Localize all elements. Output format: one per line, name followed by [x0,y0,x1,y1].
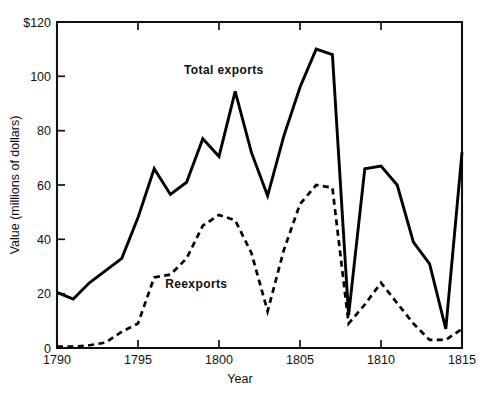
x-axis-top-ticks [138,22,381,30]
x-tick-label-1805: 1805 [286,353,314,367]
y-tick-label-20: 20 [37,287,51,301]
series-label-reexports: Reexports [165,277,227,291]
x-tick-label-1815: 1815 [448,353,476,367]
y-tick-label-120: $120 [23,16,51,30]
x-tick-label-1790: 1790 [43,353,71,367]
series-label-total-exports: Total exports [184,63,264,77]
x-axis-tick-labels: 1790 1795 1800 1805 1810 1815 [43,353,476,367]
y-axis-ticks [57,22,65,348]
y-axis-title: Value (millions of dollars) [8,116,22,255]
y-tick-label-60: 60 [37,179,51,193]
exports-line-chart: 0 20 40 60 80 100 $120 1790 1795 [0,0,488,398]
series-line-total-exports [57,49,462,329]
y-tick-label-100: 100 [30,70,51,84]
x-tick-label-1810: 1810 [367,353,395,367]
y-tick-label-40: 40 [37,233,51,247]
series-line-reexports [57,185,462,347]
x-axis-ticks [57,340,462,348]
x-tick-label-1800: 1800 [205,353,233,367]
chart-figure: 0 20 40 60 80 100 $120 1790 1795 [0,0,488,398]
y-tick-label-80: 80 [37,124,51,138]
x-tick-label-1795: 1795 [124,353,152,367]
y-axis-tick-labels: 0 20 40 60 80 100 $120 [23,16,51,356]
x-axis-title: Year [227,372,252,386]
